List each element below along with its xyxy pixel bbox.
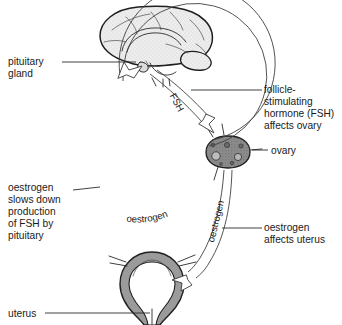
pituitary-gland-line-2: gland xyxy=(8,68,33,79)
fallopian-tube-left-2 xyxy=(110,263,127,266)
label-pituitary-gland: pituitary gland xyxy=(8,56,45,79)
follicle-1 xyxy=(212,152,220,160)
oestrogen-feedback-line-4: of FSH by xyxy=(8,218,54,229)
pathway-label-oestrogen-uterus: oestrogen xyxy=(205,199,226,243)
label-oestrogen-affects-uterus: oestrogen affects uterus xyxy=(264,222,325,245)
follicle-6 xyxy=(230,161,233,164)
label-oestrogen-feedback: oestrogen slows down production of FSH b… xyxy=(8,182,61,241)
label-uterus: uterus xyxy=(8,308,36,319)
oestrogen-feedback-line-2: slows down xyxy=(8,194,61,205)
fallopian-tube-left xyxy=(109,256,126,262)
fsh-affects-ovary-line-1: follicle- xyxy=(264,84,296,95)
ovary-tube-line-2 xyxy=(222,124,224,135)
stem-tick-1 xyxy=(152,78,156,86)
pathway-label-oestrogen-feedback: oestrogen xyxy=(126,208,169,224)
oestrogen-feedback-line-3: production xyxy=(8,206,56,217)
fsh-arrowhead xyxy=(199,114,215,133)
fallopian-tube-right-2 xyxy=(179,262,196,266)
fsh-arrow-inner xyxy=(157,70,210,118)
ovary-outline xyxy=(206,136,250,168)
follicle-3 xyxy=(224,142,229,147)
fallopian-tube-right xyxy=(178,255,195,262)
follicle-7 xyxy=(220,163,223,166)
oestrogen-affects-uterus-line-2: affects uterus xyxy=(264,234,325,245)
pituitary-gland-line-1: pituitary xyxy=(8,56,45,67)
oestrogen-feedback-line-1: oestrogen xyxy=(8,182,53,193)
fsh-affects-ovary-line-3: hormone (FSH) xyxy=(264,108,334,119)
hormone-feedback-diagram: pituitary gland follicle- stimulating ho… xyxy=(0,0,342,325)
oestrogen-feedback-arc-text: oestrogen xyxy=(126,208,169,224)
pathway-label-fsh: FSH xyxy=(168,91,187,113)
oestrogen-affects-uterus-line-1: oestrogen xyxy=(264,222,309,233)
oestrogen-feedback-line-5: pituitary xyxy=(8,230,45,241)
follicle-2 xyxy=(234,153,241,160)
follicle-4 xyxy=(239,144,243,148)
brain-illustration xyxy=(100,6,212,87)
fsh-affects-ovary-line-2: stimulating xyxy=(264,96,313,107)
ovary-tube-line-4 xyxy=(214,167,218,180)
label-ovary: ovary xyxy=(271,145,297,156)
label-fsh-affects-ovary: follicle- stimulating hormone (FSH) affe… xyxy=(264,84,334,131)
leader-oestrogen-feedback xyxy=(73,187,100,190)
fsh-affects-ovary-line-4: affects ovary xyxy=(264,120,322,131)
